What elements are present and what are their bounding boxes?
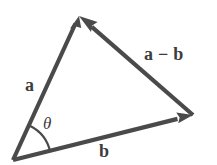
vector-b-label: b xyxy=(99,142,109,160)
vector-a-minus-b-label: a−b xyxy=(144,45,183,63)
vector-a-minus-b-shaft xyxy=(92,27,193,115)
vector-a-minus-b-group xyxy=(79,16,193,115)
minus-operator: − xyxy=(153,44,173,64)
angle-theta-label: θ xyxy=(43,115,51,132)
vector-a-label: a xyxy=(25,76,34,94)
vector-a-minus-b-operand-second: b xyxy=(173,44,183,64)
vector-a-minus-b-operand-first: a xyxy=(144,44,153,64)
vector-a-group xyxy=(13,16,81,160)
vector-diagram-figure: a b a−b θ xyxy=(0,0,217,165)
vector-b-shaft xyxy=(13,119,178,160)
